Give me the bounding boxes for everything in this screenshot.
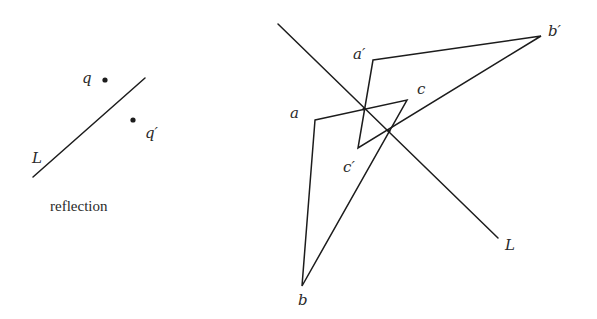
point-q bbox=[102, 77, 107, 82]
intersection-point-1 bbox=[362, 107, 365, 110]
label-b-prime: b′ bbox=[548, 22, 562, 40]
reflection-diagram: q q′ L reflection a b c a′ b′ c′ L bbox=[0, 0, 597, 319]
label-line-left: L bbox=[31, 149, 42, 167]
mirror-line-left bbox=[33, 78, 145, 177]
point-q-prime bbox=[130, 117, 135, 122]
label-line-right: L bbox=[504, 236, 515, 254]
label-c-prime: c′ bbox=[343, 158, 355, 176]
triangle-reflected bbox=[358, 36, 541, 148]
caption-reflection: reflection bbox=[50, 198, 108, 214]
label-b: b bbox=[298, 291, 308, 309]
intersection-point-2 bbox=[387, 129, 390, 132]
label-q-prime: q′ bbox=[145, 124, 159, 142]
label-a-prime: a′ bbox=[353, 45, 366, 63]
label-c: c bbox=[417, 80, 426, 98]
label-a: a bbox=[290, 104, 299, 122]
left-figure: q q′ L reflection bbox=[31, 69, 159, 214]
label-q: q bbox=[82, 69, 92, 87]
right-figure: a b c a′ b′ c′ L bbox=[278, 22, 562, 309]
